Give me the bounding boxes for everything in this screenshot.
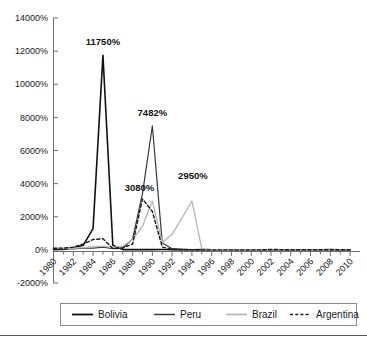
- legend-label-bolivia: Bolivia: [98, 309, 128, 320]
- series-line-argentina: [54, 199, 351, 250]
- y-axis-tick-label: 14000%: [15, 13, 48, 23]
- chart-figure: 14000%12000%10000%8000%6000%4000%2000%0%…: [0, 0, 367, 338]
- x-axis-tick-label: 1982: [57, 256, 78, 277]
- x-axis-tick-label: 2006: [294, 256, 315, 277]
- data-annotations: 11750%7482%3080%2950%: [86, 36, 208, 193]
- y-axis-tick-label: 4000%: [20, 179, 48, 189]
- y-axis-tick-label: 6000%: [20, 146, 48, 156]
- legend-label-brazil: Brazil: [252, 309, 277, 320]
- series-line-brazil: [54, 201, 351, 250]
- x-axis-tick-label: 1984: [77, 256, 98, 277]
- data-annotation: 2950%: [178, 170, 208, 181]
- x-axis-tick-label: 1988: [116, 256, 137, 277]
- data-annotation: 11750%: [86, 36, 121, 47]
- x-axis-tick-label: 1998: [215, 256, 236, 277]
- y-axis-tick-label: 10000%: [15, 79, 48, 89]
- y-axis-tick-label: 0%: [35, 245, 48, 255]
- x-axis-tick-label: 1992: [156, 256, 177, 277]
- x-axis-tick-label: 1996: [195, 256, 216, 277]
- y-axis-tick-labels: 14000%12000%10000%8000%6000%4000%2000%0%…: [15, 13, 48, 288]
- x-axis-tick-label: 1986: [96, 256, 117, 277]
- x-axis-tick-label: 1994: [176, 256, 197, 277]
- y-axis-tick-label: -2000%: [17, 278, 48, 288]
- data-annotation: 7482%: [138, 107, 168, 118]
- series-line-bolivia: [54, 55, 351, 250]
- y-axis-tick-label: 2000%: [20, 212, 48, 222]
- x-axis-tick-label: 2000: [235, 256, 256, 277]
- x-axis-tick-label: 2004: [274, 256, 295, 277]
- inflation-line-chart: 14000%12000%10000%8000%6000%4000%2000%0%…: [0, 0, 367, 338]
- y-axis-tick-marks: [54, 18, 59, 283]
- x-axis-tick-marks: [54, 252, 351, 257]
- x-axis-tick-labels: 1980198219841986198819901992199419961998…: [37, 256, 355, 277]
- y-axis-tick-label: 8000%: [20, 113, 48, 123]
- x-axis-tick-label: 2008: [314, 256, 335, 277]
- legend-label-argentina: Argentina: [316, 309, 359, 320]
- x-axis-tick-label: 1980: [37, 256, 58, 277]
- legend-label-peru: Peru: [180, 309, 201, 320]
- series-paths: [54, 55, 351, 250]
- data-annotation: 3080%: [125, 182, 155, 193]
- y-axis-tick-label: 12000%: [15, 46, 48, 56]
- legend: BoliviaPeruBrazilArgentina: [61, 304, 360, 326]
- x-axis-tick-label: 1990: [136, 256, 157, 277]
- x-axis-tick-label: 2010: [334, 256, 355, 277]
- x-axis-tick-label: 2002: [255, 256, 276, 277]
